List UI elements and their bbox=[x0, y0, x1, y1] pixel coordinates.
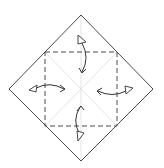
bottom-fold-arrow-icon bbox=[76, 106, 84, 141]
crease-lines bbox=[45, 15, 117, 161]
top-fold-arrow-icon bbox=[78, 35, 86, 73]
origami-diagram bbox=[0, 0, 164, 168]
right-fold-arrow-icon bbox=[97, 86, 133, 95]
left-fold-arrow-icon bbox=[29, 85, 65, 92]
diagram-canvas bbox=[0, 0, 164, 168]
